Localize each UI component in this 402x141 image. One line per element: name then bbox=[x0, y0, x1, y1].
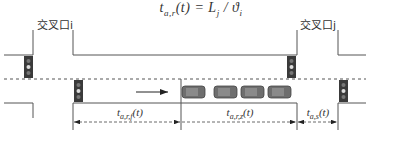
signal-icon bbox=[339, 80, 348, 102]
signal-icon bbox=[74, 80, 83, 102]
queue-time-label: ta,r,z(t) bbox=[200, 106, 280, 121]
signal-icon bbox=[287, 56, 296, 78]
vehicle-icon bbox=[182, 86, 205, 98]
free-flow-time-label: ta,r,f(t) bbox=[90, 106, 170, 121]
intersection-i-label: 交叉口i bbox=[37, 16, 73, 32]
intersection-j-label: 交叉口j bbox=[300, 16, 336, 32]
signal-time-label: ta,s(t) bbox=[298, 106, 338, 121]
intersection-i-boundaries bbox=[33, 30, 73, 130]
vehicle-icon bbox=[241, 86, 264, 98]
vehicle-icon bbox=[214, 86, 237, 98]
signal-icon bbox=[24, 56, 33, 78]
vehicle-icon bbox=[268, 86, 291, 98]
